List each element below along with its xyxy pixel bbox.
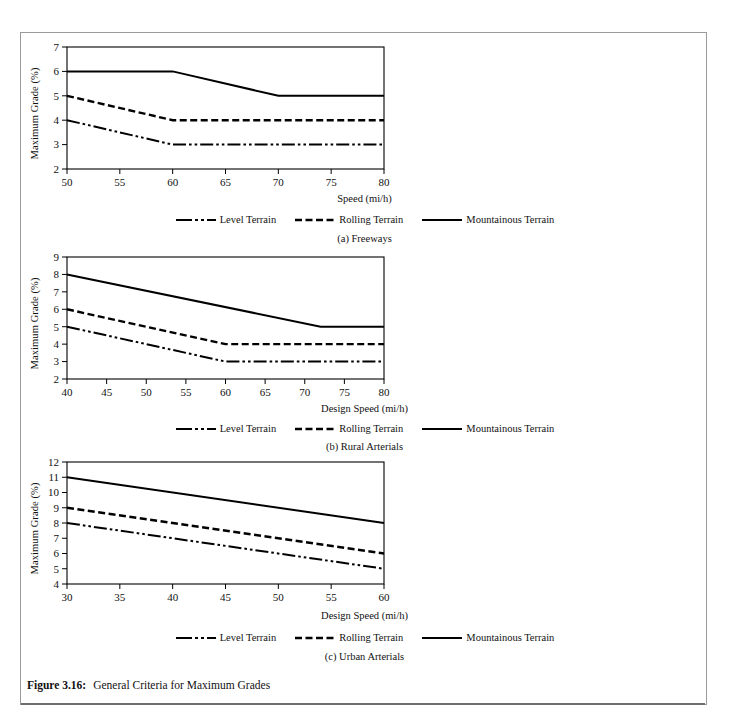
chart-rural-arterials: Maximum Grade (%) 2345678940455055606570… [21,251,708,456]
svg-text:6: 6 [54,303,60,315]
svg-text:75: 75 [339,386,351,398]
svg-text:70: 70 [273,176,285,188]
svg-text:55: 55 [114,176,126,188]
legend-label-level-a: Level Terrain [220,214,277,225]
legend-key-mountainous-c [421,633,463,643]
legend-key-level-c [175,633,217,643]
chart-svg-a: 23456750556065707580 [41,41,581,201]
svg-text:60: 60 [167,176,179,188]
x-axis-label-a: Speed (mi/h) [21,193,708,204]
svg-text:80: 80 [379,176,391,188]
svg-text:65: 65 [260,386,272,398]
plot-area-b: Maximum Grade (%) 2345678940455055606570… [21,251,708,411]
figure-caption-text: General Criteria for Maximum Grades [93,679,270,691]
plot-svg-holder-a: 23456750556065707580 [41,41,581,205]
svg-text:50: 50 [141,386,153,398]
svg-text:60: 60 [379,591,391,603]
svg-text:65: 65 [220,176,232,188]
legend-item-rolling-a: Rolling Terrain [294,214,403,225]
subcaption-b: (b) Rural Arterials [21,441,708,452]
legend-label-rolling-b: Rolling Terrain [339,423,403,434]
plot-svg-holder-b: 23456789404550556065707580 [41,251,581,415]
legend-item-level-c: Level Terrain [175,632,277,643]
svg-text:7: 7 [54,41,60,53]
legend-key-level-b [175,424,217,434]
subcaption-c: (c) Urban Arterials [21,651,708,662]
legend-label-rolling-c: Rolling Terrain [339,632,403,643]
legend-a: Level Terrain Rolling Terrain Mountainou… [21,214,708,225]
legend-key-rolling-b [294,424,336,434]
figure-page-frame: Maximum Grade (%) 23456750556065707580 S… [20,32,707,705]
svg-text:8: 8 [54,268,60,280]
legend-key-level-a [175,215,217,225]
svg-text:50: 50 [62,176,74,188]
svg-text:5: 5 [54,90,60,102]
svg-text:7: 7 [54,532,60,544]
legend-c: Level Terrain Rolling Terrain Mountainou… [21,632,708,643]
svg-text:6: 6 [54,65,60,77]
x-axis-label-c: Design Speed (mi/h) [21,610,708,621]
svg-text:70: 70 [299,386,311,398]
svg-text:45: 45 [220,591,232,603]
legend-item-level-b: Level Terrain [175,423,277,434]
svg-text:55: 55 [180,386,192,398]
legend-key-mountainous-b [421,424,463,434]
svg-text:7: 7 [54,286,60,298]
figure-caption-number: Figure 3.16: [27,679,86,691]
legend-label-mountainous-b: Mountainous Terrain [466,423,554,434]
svg-text:8: 8 [54,517,60,529]
svg-text:50: 50 [273,591,285,603]
legend-item-mountainous-c: Mountainous Terrain [421,632,554,643]
subcaption-a: (a) Freeways [21,233,708,244]
svg-text:12: 12 [48,456,59,468]
chart-freeways: Maximum Grade (%) 23456750556065707580 S… [21,41,708,251]
svg-text:9: 9 [54,502,60,514]
plot-area-a: Maximum Grade (%) 23456750556065707580 [21,41,708,201]
x-axis-label-b: Design Speed (mi/h) [21,403,708,414]
chart-svg-c: 45678910111230354045505560 [41,456,581,616]
legend-label-level-b: Level Terrain [220,423,277,434]
svg-text:30: 30 [62,591,74,603]
legend-b: Level Terrain Rolling Terrain Mountainou… [21,423,708,434]
svg-text:3: 3 [54,138,60,150]
figure-caption: Figure 3.16:General Criteria for Maximum… [27,679,270,691]
legend-item-mountainous-a: Mountainous Terrain [421,214,554,225]
svg-text:3: 3 [54,355,60,367]
svg-text:6: 6 [54,547,60,559]
svg-text:4: 4 [54,578,60,590]
legend-label-mountainous-c: Mountainous Terrain [466,632,554,643]
svg-text:2: 2 [54,163,60,175]
svg-text:35: 35 [114,591,126,603]
legend-label-rolling-a: Rolling Terrain [339,214,403,225]
svg-text:9: 9 [54,251,60,263]
svg-text:75: 75 [326,176,338,188]
svg-text:2: 2 [54,373,60,385]
plot-area-c: Maximum Grade (%) 4567891011123035404550… [21,456,708,616]
caption-divider-rule [21,703,705,705]
svg-text:40: 40 [167,591,179,603]
svg-text:45: 45 [101,386,113,398]
legend-key-rolling-a [294,215,336,225]
chart-svg-b: 23456789404550556065707580 [41,251,581,411]
legend-label-mountainous-a: Mountainous Terrain [466,214,554,225]
svg-text:80: 80 [379,386,391,398]
chart-urban-arterials: Maximum Grade (%) 4567891011123035404550… [21,456,708,671]
svg-text:11: 11 [48,471,59,483]
legend-item-level-a: Level Terrain [175,214,277,225]
legend-key-mountainous-a [421,215,463,225]
legend-item-rolling-b: Rolling Terrain [294,423,403,434]
legend-item-rolling-c: Rolling Terrain [294,632,403,643]
svg-text:10: 10 [48,486,60,498]
svg-text:55: 55 [326,591,338,603]
legend-key-rolling-c [294,633,336,643]
svg-text:4: 4 [54,114,60,126]
plot-svg-holder-c: 45678910111230354045505560 [41,456,581,620]
svg-text:5: 5 [54,563,60,575]
legend-item-mountainous-b: Mountainous Terrain [421,423,554,434]
svg-text:4: 4 [54,338,60,350]
svg-text:60: 60 [220,386,232,398]
legend-label-level-c: Level Terrain [220,632,277,643]
svg-text:5: 5 [54,321,60,333]
svg-text:40: 40 [62,386,74,398]
